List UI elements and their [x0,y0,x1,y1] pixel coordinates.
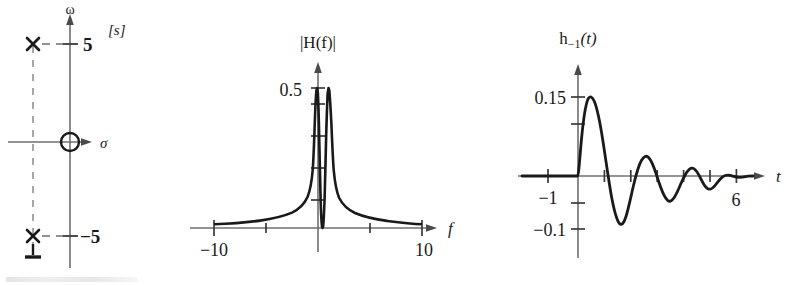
magnitude-response-panel: |H(f)| 0.5 −10 10 f [190,0,490,285]
step-response-svg: h−1(t) 0.15 −0.1 −1 6 t [490,0,807,285]
step-plot-title: h−1(t) [559,29,597,51]
amplitude-ytick-label-015: 0.15 [535,88,567,108]
omega-tick-label-plus5: 5 [83,34,93,55]
frequency-axis-label: f [448,219,455,238]
magnitude-response-svg: |H(f)| 0.5 −10 10 f [190,0,490,285]
frequency-axis-arrowhead [426,224,437,232]
sigma-axis-arrowhead [81,138,92,146]
time-xtick-label-minus1: −1 [538,188,557,208]
magnitude-ytick-label-05: 0.5 [280,80,303,100]
time-axis-label: t [776,167,782,186]
frequency-xtick-label-10: 10 [415,240,433,260]
step-response-panel: h−1(t) 0.15 −0.1 −1 6 t [490,0,807,285]
pole-zero-svg: ω σ 5 −5 [s] [0,0,190,285]
omega-axis-label: ω [65,2,74,17]
pole-real-part-bracket [25,244,41,257]
sigma-axis-label: σ [100,135,108,151]
frequency-xtick-label-minus10: −10 [200,240,228,260]
scan-artifact [6,277,138,282]
amplitude-axis-arrowhead [574,64,582,75]
pole-zero-panel: ω σ 5 −5 [s] [0,0,190,285]
magnitude-plot-title: |H(f)| [300,33,336,52]
magnitude-axis-arrowhead [314,62,322,73]
time-axis-arrowhead [754,172,765,180]
amplitude-ytick-label-minus01: −0.1 [533,220,566,240]
s-plane-label: [s] [108,22,126,38]
omega-tick-label-minus5: −5 [80,226,100,247]
time-xtick-label-6: 6 [732,190,741,210]
